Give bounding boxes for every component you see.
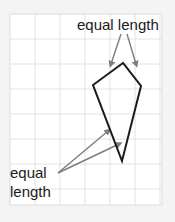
diagram-canvas: equal length equal length [0,0,175,222]
geometry-figure: equal length equal length [0,0,175,222]
label-equal-length-bottom-line2: length [10,183,51,200]
label-equal-length-bottom-line1: equal [10,164,47,181]
label-equal-length-top: equal length [77,16,159,33]
